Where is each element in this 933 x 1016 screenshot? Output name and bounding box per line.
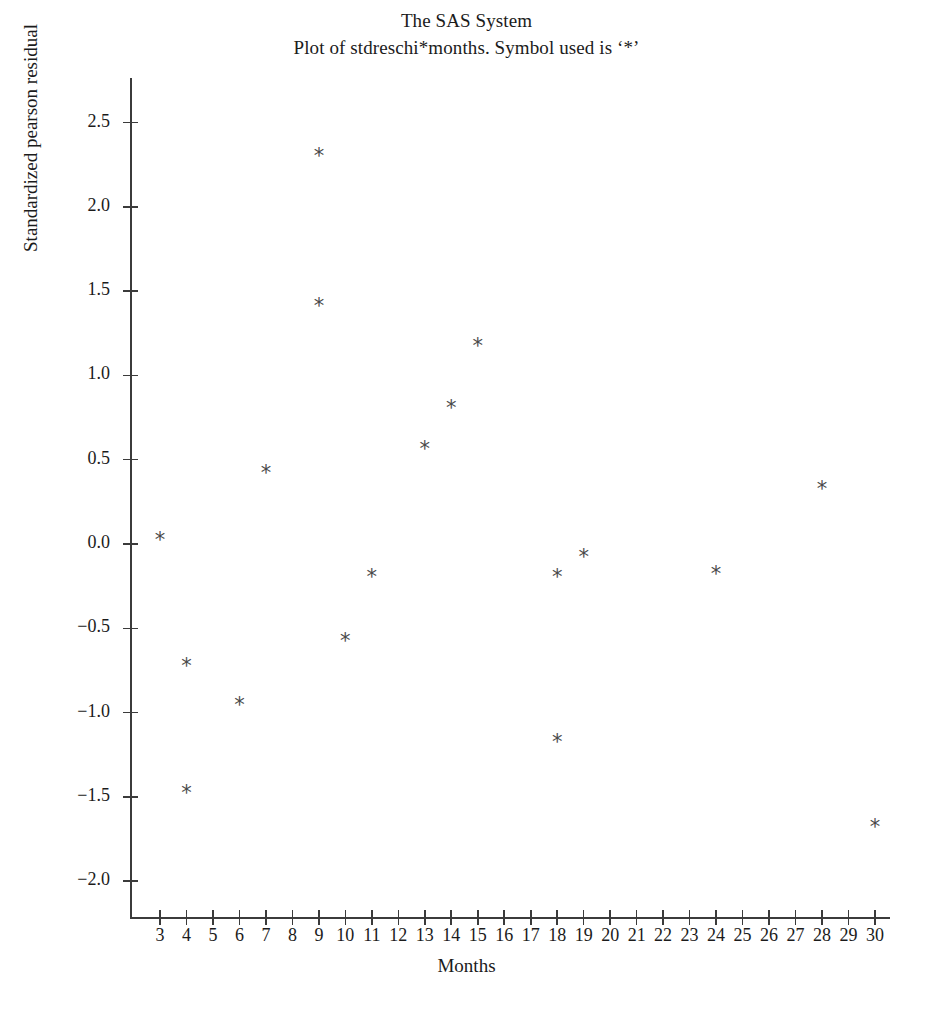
- data-point-marker: *: [229, 695, 249, 715]
- x-axis-tick: [874, 910, 876, 925]
- data-point-marker: *: [865, 817, 885, 837]
- y-axis-tick-label: 2.0: [48, 195, 110, 216]
- data-point-marker: *: [362, 567, 382, 587]
- x-axis-tick: [662, 910, 664, 925]
- y-axis-tick: [123, 628, 138, 630]
- y-axis-tick-label: 0.0: [48, 532, 110, 553]
- data-point-marker: *: [468, 336, 488, 356]
- y-axis-line: [130, 78, 132, 919]
- x-axis-tick-label: 30: [858, 925, 892, 946]
- x-axis-tick: [318, 910, 320, 925]
- x-axis-tick: [371, 910, 373, 925]
- y-axis-label: Standardized pearson residual: [20, 0, 42, 318]
- x-axis-tick: [768, 910, 770, 925]
- x-axis-tick: [345, 910, 347, 925]
- y-axis-tick: [123, 796, 138, 798]
- y-axis-tick-label: 0.5: [48, 448, 110, 469]
- x-axis-tick: [742, 910, 744, 925]
- y-axis-tick-label: 2.5: [48, 111, 110, 132]
- x-axis-tick: [265, 910, 267, 925]
- x-axis-tick: [212, 910, 214, 925]
- y-axis-tick: [123, 122, 138, 124]
- data-point-marker: *: [150, 530, 170, 550]
- x-axis-tick: [477, 910, 479, 925]
- y-axis-tick: [123, 206, 138, 208]
- x-axis-tick: [424, 910, 426, 925]
- x-axis-tick: [636, 910, 638, 925]
- y-axis-tick-label: 1.5: [48, 279, 110, 300]
- data-point-marker: *: [415, 439, 435, 459]
- x-axis-tick: [159, 910, 161, 925]
- y-axis-tick-label: −1.5: [48, 785, 110, 806]
- y-axis-tick: [123, 543, 138, 545]
- x-axis-tick: [583, 910, 585, 925]
- chart-title-block: The SAS System Plot of stdreschi*months.…: [0, 8, 933, 62]
- x-axis-tick: [848, 910, 850, 925]
- x-axis-tick: [556, 910, 558, 925]
- data-point-marker: *: [547, 732, 567, 752]
- data-point-marker: *: [335, 631, 355, 651]
- y-axis-tick-label: −2.0: [48, 869, 110, 890]
- x-axis-label: Months: [0, 955, 933, 977]
- data-point-marker: *: [706, 564, 726, 584]
- data-point-marker: *: [256, 463, 276, 483]
- y-axis-tick: [123, 880, 138, 882]
- y-axis-tick: [123, 459, 138, 461]
- scatter-plot-figure: The SAS System Plot of stdreschi*months.…: [0, 0, 933, 1016]
- y-axis-tick-label: −0.5: [48, 616, 110, 637]
- y-axis-tick: [123, 712, 138, 714]
- data-point-marker: *: [176, 656, 196, 676]
- x-axis-tick: [292, 910, 294, 925]
- data-point-marker: *: [547, 567, 567, 587]
- chart-title-line-1: The SAS System: [0, 8, 933, 35]
- data-point-marker: *: [309, 146, 329, 166]
- y-axis-tick-label: 1.0: [48, 363, 110, 384]
- x-axis-tick: [821, 910, 823, 925]
- x-axis-tick: [715, 910, 717, 925]
- x-axis-tick: [450, 910, 452, 925]
- chart-title-line-2: Plot of stdreschi*months. Symbol used is…: [0, 35, 933, 62]
- x-axis-tick: [795, 910, 797, 925]
- data-point-marker: *: [812, 479, 832, 499]
- data-point-marker: *: [574, 547, 594, 567]
- x-axis-tick: [186, 910, 188, 925]
- x-axis-line: [130, 917, 890, 919]
- data-point-marker: *: [176, 783, 196, 803]
- x-axis-tick: [503, 910, 505, 925]
- x-axis-tick: [530, 910, 532, 925]
- data-point-marker: *: [309, 296, 329, 316]
- y-axis-tick: [123, 375, 138, 377]
- y-axis-tick: [123, 290, 138, 292]
- y-axis-tick-label: −1.0: [48, 701, 110, 722]
- x-axis-tick: [689, 910, 691, 925]
- x-axis-tick: [239, 910, 241, 925]
- x-axis-tick: [609, 910, 611, 925]
- x-axis-tick: [398, 910, 400, 925]
- data-point-marker: *: [441, 398, 461, 418]
